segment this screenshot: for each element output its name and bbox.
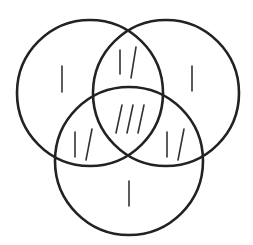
set-a-circle xyxy=(17,20,163,166)
tally-ab xyxy=(120,47,136,78)
tally-ac xyxy=(75,129,92,160)
tally-abc xyxy=(116,105,144,133)
venn-diagram xyxy=(0,0,253,245)
set-b-circle xyxy=(93,20,239,166)
tally-bc xyxy=(167,129,184,160)
set-c-circle xyxy=(55,87,203,235)
